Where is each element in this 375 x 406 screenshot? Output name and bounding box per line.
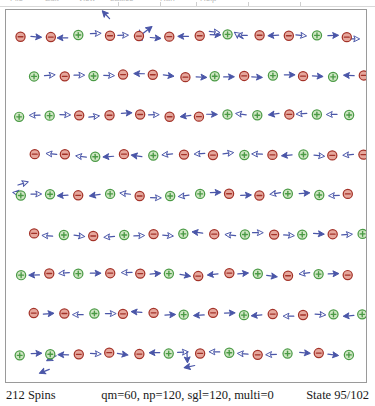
negative-charge-marker[interactable] bbox=[105, 348, 114, 357]
negative-charge-marker[interactable] bbox=[105, 31, 114, 40]
negative-charge-marker[interactable] bbox=[46, 32, 55, 41]
positive-charge-marker[interactable] bbox=[329, 72, 338, 81]
negative-charge-marker[interactable] bbox=[255, 31, 264, 40]
positive-charge-marker[interactable] bbox=[239, 311, 248, 320]
negative-charge-marker[interactable] bbox=[30, 150, 39, 159]
negative-charge-marker[interactable] bbox=[268, 150, 277, 159]
positive-charge-marker[interactable] bbox=[17, 271, 26, 280]
positive-charge-marker[interactable] bbox=[358, 229, 366, 238]
positive-charge-marker[interactable] bbox=[210, 72, 219, 81]
positive-charge-marker[interactable] bbox=[196, 189, 205, 198]
negative-charge-marker[interactable] bbox=[29, 308, 38, 317]
positive-charge-marker[interactable] bbox=[29, 72, 38, 81]
negative-charge-marker[interactable] bbox=[118, 70, 127, 79]
negative-charge-marker[interactable] bbox=[208, 151, 217, 160]
toolbar-item-3[interactable]: Lattice bbox=[110, 0, 134, 3]
toolbar-item-1[interactable]: Edit bbox=[45, 0, 59, 3]
positive-charge-marker[interactable] bbox=[283, 189, 292, 198]
positive-charge-marker[interactable] bbox=[74, 269, 83, 278]
negative-charge-marker[interactable] bbox=[148, 70, 157, 79]
positive-charge-marker[interactable] bbox=[166, 191, 175, 200]
negative-charge-marker[interactable] bbox=[60, 309, 69, 318]
spin-lattice-canvas[interactable] bbox=[5, 9, 367, 383]
positive-charge-marker[interactable] bbox=[120, 230, 129, 239]
positive-charge-marker[interactable] bbox=[164, 349, 173, 358]
negative-charge-marker[interactable] bbox=[224, 189, 233, 198]
negative-charge-marker[interactable] bbox=[118, 309, 127, 318]
positive-charge-marker[interactable] bbox=[283, 349, 292, 358]
negative-charge-marker[interactable] bbox=[328, 151, 337, 160]
negative-charge-marker[interactable] bbox=[328, 230, 337, 239]
positive-charge-marker[interactable] bbox=[345, 110, 354, 119]
negative-charge-marker[interactable] bbox=[45, 269, 54, 278]
negative-charge-marker[interactable] bbox=[284, 31, 293, 40]
negative-charge-marker[interactable] bbox=[225, 269, 234, 278]
positive-charge-marker[interactable] bbox=[312, 110, 321, 119]
negative-charge-marker[interactable] bbox=[255, 191, 264, 200]
toolbar-item-0[interactable]: File bbox=[10, 0, 23, 3]
positive-charge-marker[interactable] bbox=[45, 111, 54, 120]
positive-charge-marker[interactable] bbox=[314, 270, 323, 279]
positive-charge-marker[interactable] bbox=[253, 111, 262, 120]
negative-charge-marker[interactable] bbox=[314, 348, 323, 357]
negative-charge-marker[interactable] bbox=[208, 308, 217, 317]
positive-charge-marker[interactable] bbox=[89, 71, 98, 80]
positive-charge-marker[interactable] bbox=[253, 269, 262, 278]
negative-charge-marker[interactable] bbox=[16, 32, 25, 41]
positive-charge-marker[interactable] bbox=[16, 191, 25, 200]
positive-charge-marker[interactable] bbox=[223, 110, 232, 119]
negative-charge-marker[interactable] bbox=[268, 309, 277, 318]
positive-charge-marker[interactable] bbox=[329, 310, 338, 319]
negative-charge-marker[interactable] bbox=[135, 191, 144, 200]
positive-charge-marker[interactable] bbox=[74, 30, 83, 39]
positive-charge-marker[interactable] bbox=[149, 151, 158, 160]
negative-charge-marker[interactable] bbox=[196, 349, 205, 358]
negative-charge-marker[interactable] bbox=[194, 271, 203, 280]
toolbar-item-2[interactable]: View bbox=[78, 0, 95, 3]
negative-charge-marker[interactable] bbox=[298, 72, 307, 81]
negative-charge-marker[interactable] bbox=[149, 308, 158, 317]
negative-charge-marker[interactable] bbox=[359, 71, 366, 80]
positive-charge-marker[interactable] bbox=[358, 310, 366, 319]
positive-charge-marker[interactable] bbox=[179, 229, 188, 238]
negative-charge-marker[interactable] bbox=[283, 271, 292, 280]
positive-charge-marker[interactable] bbox=[312, 31, 321, 40]
negative-charge-marker[interactable] bbox=[134, 31, 143, 40]
positive-charge-marker[interactable] bbox=[179, 310, 188, 319]
positive-charge-marker[interactable] bbox=[240, 150, 249, 159]
negative-charge-marker[interactable] bbox=[136, 110, 145, 119]
negative-charge-marker[interactable] bbox=[195, 31, 204, 40]
negative-charge-marker[interactable] bbox=[89, 231, 98, 240]
positive-charge-marker[interactable] bbox=[59, 230, 68, 239]
negative-charge-marker[interactable] bbox=[165, 32, 174, 41]
negative-charge-marker[interactable] bbox=[75, 111, 84, 120]
negative-charge-marker[interactable] bbox=[253, 350, 262, 359]
negative-charge-marker[interactable] bbox=[60, 72, 69, 81]
positive-charge-marker[interactable] bbox=[315, 190, 324, 199]
negative-charge-marker[interactable] bbox=[343, 189, 352, 198]
positive-charge-marker[interactable] bbox=[15, 351, 24, 360]
positive-charge-marker[interactable] bbox=[268, 71, 277, 80]
negative-charge-marker[interactable] bbox=[285, 110, 294, 119]
negative-charge-marker[interactable] bbox=[210, 230, 219, 239]
negative-charge-marker[interactable] bbox=[343, 270, 352, 279]
negative-charge-marker[interactable] bbox=[135, 349, 144, 358]
positive-charge-marker[interactable] bbox=[164, 269, 173, 278]
positive-charge-marker[interactable] bbox=[90, 309, 99, 318]
negative-charge-marker[interactable] bbox=[181, 73, 190, 82]
negative-charge-marker[interactable] bbox=[105, 111, 114, 120]
positive-charge-marker[interactable] bbox=[91, 152, 100, 161]
negative-charge-marker[interactable] bbox=[119, 150, 128, 159]
positive-charge-marker[interactable] bbox=[299, 150, 308, 159]
negative-charge-marker[interactable] bbox=[74, 191, 83, 200]
positive-charge-marker[interactable] bbox=[223, 30, 232, 39]
negative-charge-marker[interactable] bbox=[359, 150, 366, 159]
toolbar-item-5[interactable]: Help bbox=[200, 0, 216, 3]
negative-charge-marker[interactable] bbox=[342, 33, 351, 42]
negative-charge-marker[interactable] bbox=[194, 112, 203, 121]
negative-charge-marker[interactable] bbox=[149, 230, 158, 239]
negative-charge-marker[interactable] bbox=[179, 150, 188, 159]
negative-charge-marker[interactable] bbox=[298, 310, 307, 319]
positive-charge-marker[interactable] bbox=[344, 350, 353, 359]
positive-charge-marker[interactable] bbox=[15, 112, 24, 121]
